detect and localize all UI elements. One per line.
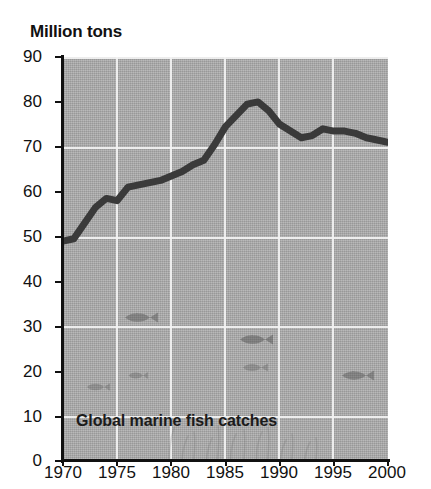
y-tick-10 [55, 416, 63, 418]
plot-area [63, 57, 388, 461]
chart-figure: Million tons [0, 0, 431, 489]
y-axis-line [61, 55, 64, 463]
x-tick-label-1980: 1980 [144, 464, 198, 481]
y-tick-label-20: 20 [8, 363, 42, 380]
y-tick-label-30: 30 [8, 318, 42, 335]
y-tick-label-70: 70 [8, 138, 42, 155]
x-tick-label-1970: 1970 [36, 464, 90, 481]
y-tick-label-80: 80 [8, 93, 42, 110]
y-tick-label-40: 40 [8, 273, 42, 290]
x-tick-label-1995: 1995 [306, 464, 360, 481]
x-tick-label-1975: 1975 [90, 464, 144, 481]
y-tick-label-10: 10 [8, 408, 42, 425]
y-tick-90 [55, 56, 63, 58]
y-axis-title: Million tons [30, 22, 122, 42]
chart-caption: Global marine fish catches [76, 412, 277, 430]
y-tick-label-60: 60 [8, 183, 42, 200]
y-tick-40 [55, 281, 63, 283]
y-tick-label-50: 50 [8, 228, 42, 245]
y-tick-30 [55, 326, 63, 328]
x-tick-label-2000: 2000 [360, 464, 414, 481]
y-tick-80 [55, 101, 63, 103]
x-tick-label-1990: 1990 [252, 464, 306, 481]
y-tick-label-90: 90 [8, 48, 42, 65]
y-tick-60 [55, 191, 63, 193]
y-tick-20 [55, 371, 63, 373]
x-tick-label-1985: 1985 [198, 464, 252, 481]
y-tick-70 [55, 146, 63, 148]
y-tick-50 [55, 236, 63, 238]
data-series-line [63, 57, 388, 461]
